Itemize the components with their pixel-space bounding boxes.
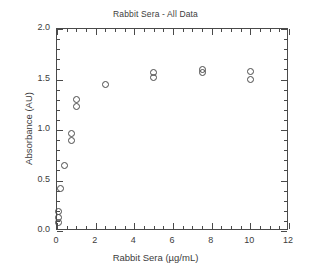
x-major-tick-top <box>134 29 135 35</box>
data-point <box>68 137 75 144</box>
x-minor-tick-top <box>270 29 271 32</box>
y-tick-label: 0.0 <box>10 224 50 234</box>
x-minor-tick-top <box>115 29 116 32</box>
y-minor-tick-right <box>284 160 287 161</box>
x-minor-tick <box>260 226 261 229</box>
y-major-tick-right <box>281 130 287 131</box>
x-major-tick <box>212 223 213 229</box>
y-minor-tick-right <box>284 100 287 101</box>
y-major-tick <box>57 130 63 131</box>
y-minor-tick-right <box>284 191 287 192</box>
x-tick-label: 6 <box>152 235 192 245</box>
data-point <box>247 76 254 83</box>
y-minor-tick <box>57 90 60 91</box>
x-minor-tick-top <box>202 29 203 32</box>
x-major-tick <box>289 223 290 229</box>
y-minor-tick <box>57 59 60 60</box>
y-minor-tick-right <box>284 59 287 60</box>
data-point <box>68 130 75 137</box>
x-tick-label: 4 <box>113 235 153 245</box>
y-minor-tick-right <box>284 120 287 121</box>
y-minor-tick-right <box>284 221 287 222</box>
y-minor-tick-right <box>284 211 287 212</box>
x-minor-tick <box>241 226 242 229</box>
y-minor-tick-right <box>284 49 287 50</box>
x-minor-tick <box>183 226 184 229</box>
x-minor-tick-top <box>67 29 68 32</box>
y-minor-tick <box>57 120 60 121</box>
x-minor-tick-top <box>231 29 232 32</box>
chart-title: Rabbit Sera - All Data <box>0 9 311 19</box>
x-minor-tick <box>192 226 193 229</box>
x-tick-label: 0 <box>36 235 76 245</box>
y-minor-tick <box>57 110 60 111</box>
x-major-tick-top <box>212 29 213 35</box>
plot-area <box>56 28 288 230</box>
y-minor-tick-right <box>284 201 287 202</box>
x-axis-label: Rabbit Sera (µg/mL) <box>0 252 311 263</box>
y-minor-tick-right <box>284 90 287 91</box>
x-minor-tick <box>67 226 68 229</box>
y-major-tick-right <box>281 181 287 182</box>
x-minor-tick <box>279 226 280 229</box>
x-minor-tick <box>105 226 106 229</box>
data-point <box>102 81 109 88</box>
y-major-tick <box>57 231 63 232</box>
y-minor-tick <box>57 150 60 151</box>
x-minor-tick-top <box>221 29 222 32</box>
y-minor-tick <box>57 49 60 50</box>
y-major-tick <box>57 181 63 182</box>
data-point <box>57 185 64 192</box>
data-point <box>73 96 80 103</box>
y-minor-tick <box>57 160 60 161</box>
x-minor-tick-top <box>279 29 280 32</box>
x-minor-tick <box>144 226 145 229</box>
x-minor-tick <box>163 226 164 229</box>
y-minor-tick-right <box>284 69 287 70</box>
x-minor-tick-top <box>260 29 261 32</box>
x-minor-tick <box>76 226 77 229</box>
x-minor-tick <box>154 226 155 229</box>
y-minor-tick <box>57 69 60 70</box>
y-minor-tick-right <box>284 140 287 141</box>
x-minor-tick-top <box>86 29 87 32</box>
data-point <box>55 208 62 215</box>
x-tick-label: 8 <box>191 235 231 245</box>
data-point <box>247 68 254 75</box>
y-minor-tick <box>57 201 60 202</box>
y-minor-tick-right <box>284 170 287 171</box>
x-minor-tick-top <box>163 29 164 32</box>
y-axis-label: Absorbance (AU) <box>23 44 34 214</box>
y-major-tick-right <box>281 80 287 81</box>
y-minor-tick-right <box>284 150 287 151</box>
x-tick-label: 10 <box>229 235 269 245</box>
x-tick-label: 12 <box>268 235 308 245</box>
x-minor-tick <box>231 226 232 229</box>
x-minor-tick-top <box>192 29 193 32</box>
y-major-tick-right <box>281 231 287 232</box>
x-major-tick <box>96 223 97 229</box>
x-minor-tick <box>202 226 203 229</box>
x-minor-tick <box>270 226 271 229</box>
x-minor-tick <box>86 226 87 229</box>
x-major-tick-top <box>289 29 290 35</box>
y-minor-tick-right <box>284 110 287 111</box>
y-minor-tick-right <box>284 39 287 40</box>
y-minor-tick <box>57 140 60 141</box>
x-major-tick <box>173 223 174 229</box>
y-tick-label: 2.0 <box>10 22 50 32</box>
y-minor-tick <box>57 39 60 40</box>
x-minor-tick-top <box>144 29 145 32</box>
data-point <box>61 162 68 169</box>
x-minor-tick-top <box>125 29 126 32</box>
x-minor-tick <box>115 226 116 229</box>
y-minor-tick <box>57 100 60 101</box>
y-major-tick-right <box>281 29 287 30</box>
x-major-tick-top <box>173 29 174 35</box>
y-major-tick <box>57 29 63 30</box>
x-minor-tick-top <box>154 29 155 32</box>
y-minor-tick <box>57 170 60 171</box>
x-minor-tick-top <box>241 29 242 32</box>
x-major-tick <box>134 223 135 229</box>
x-minor-tick-top <box>105 29 106 32</box>
